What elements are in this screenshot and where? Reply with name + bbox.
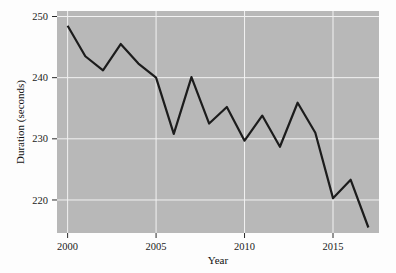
tick-label-x: 2015: [323, 241, 344, 252]
tick-label-y: 220: [32, 195, 48, 206]
tick-label-x: 2005: [146, 241, 167, 252]
x-axis-title: Year: [208, 254, 229, 266]
line-chart: 220230240250 2000200520102015 Duration (…: [0, 0, 396, 273]
tick-label-x: 2000: [57, 241, 78, 252]
y-axis-tick-labels: 220230240250: [32, 11, 48, 205]
y-axis-title: Duration (seconds): [14, 80, 27, 164]
x-axis-tick-labels: 2000200520102015: [57, 241, 343, 252]
y-axis-ticks: [52, 17, 57, 200]
chart-figure: 220230240250 2000200520102015 Duration (…: [0, 0, 396, 273]
tick-label-y: 250: [32, 11, 48, 22]
x-axis-ticks: [68, 233, 333, 238]
tick-label-y: 230: [32, 133, 48, 144]
tick-label-x: 2010: [234, 241, 255, 252]
tick-label-y: 240: [32, 72, 48, 83]
